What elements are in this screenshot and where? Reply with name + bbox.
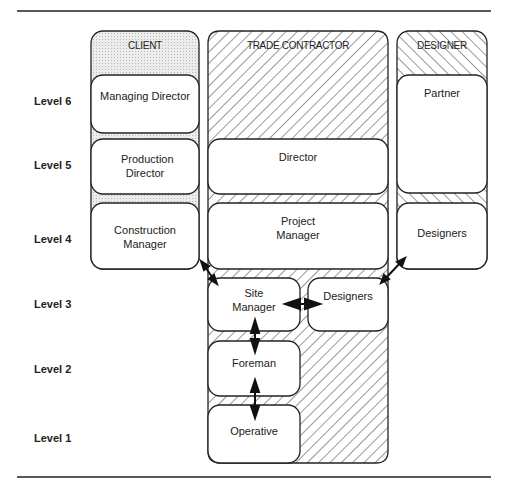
- site-manager-label: Site Manager: [224, 286, 284, 314]
- trade-contractor-header: TRADE CONTRACTOR: [208, 40, 388, 51]
- level-4-label: Level 4: [34, 233, 71, 245]
- construction-manager-label: Construction Manager: [91, 223, 199, 251]
- level-2-label: Level 2: [34, 363, 71, 375]
- managing-director-label: Managing Director: [91, 89, 199, 103]
- level-6-label: Level 6: [34, 95, 71, 107]
- production-director-label: Production Director: [121, 152, 169, 180]
- partner-label: Partner: [397, 86, 487, 100]
- level-1-label: Level 1: [34, 432, 71, 444]
- director-label: Director: [208, 150, 388, 164]
- org-diagram: [0, 0, 511, 494]
- foreman-label: Foreman: [208, 356, 300, 370]
- project-manager-label: Project Manager: [268, 214, 328, 242]
- level-3-label: Level 3: [34, 298, 71, 310]
- designer-header: DESIGNER: [397, 40, 487, 51]
- client-header: CLIENT: [91, 40, 199, 51]
- box-managing-director: [91, 75, 199, 133]
- box-director: [208, 139, 388, 194]
- tc-designers-label: Designers: [308, 289, 388, 303]
- designer-designers-label: Designers: [397, 226, 487, 240]
- operative-label: Operative: [208, 424, 300, 438]
- level-5-label: Level 5: [34, 159, 71, 171]
